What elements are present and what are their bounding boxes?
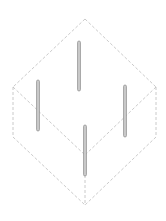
cube-edge-top-left [13,19,85,87]
vertical-rods [37,41,127,176]
rod-back [78,41,81,91]
isometric-cube-diagram [0,0,166,221]
rod-right [124,85,127,137]
cube-edge-bottom_left-bottom [13,137,85,205]
rod-left [37,80,40,131]
rod-front [84,125,87,176]
diagram-canvas [0,0,166,221]
cube-edge-left-center [13,87,85,155]
cube-dashed-edges [13,19,156,205]
cube-edge-top-right [85,19,156,87]
cube-edge-bottom_right-bottom [85,137,156,205]
cube-edge-right-center [85,87,156,155]
